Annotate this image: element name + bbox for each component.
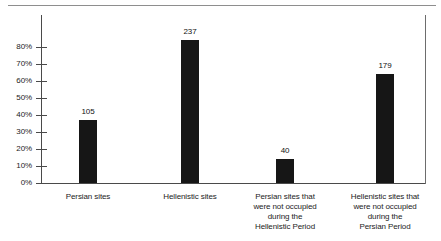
bar-value-label: 179 — [360, 61, 410, 70]
y-axis-tick-label: 20% — [0, 145, 32, 153]
top-divider-rule — [8, 5, 436, 6]
x-axis-category-label: Hellenistic sites — [137, 192, 243, 202]
y-axis-tick — [36, 115, 47, 116]
y-axis-tick-label: 0% — [0, 179, 32, 187]
x-axis-category-label: Persian sites thatwere not occupieddurin… — [232, 192, 338, 232]
category-label-line: Persian sites that — [232, 192, 338, 202]
category-label-line: Hellenistic Period — [232, 222, 338, 232]
x-axis-category-label: Persian sites — [35, 192, 141, 202]
category-label-line: Persian Period — [332, 222, 438, 232]
y-axis-tick — [36, 166, 47, 167]
category-label-line: Hellenistic sites that — [332, 192, 438, 202]
bar — [181, 40, 199, 183]
x-axis-category-label: Hellenistic sites thatwere not occupiedd… — [332, 192, 438, 232]
y-axis-tick-label: 50% — [0, 94, 32, 102]
y-axis-tick-label: 10% — [0, 162, 32, 170]
y-axis-tick-label: 80% — [0, 43, 32, 51]
y-axis-tick-label: 70% — [0, 60, 32, 68]
category-label-line: were not occupied — [332, 202, 438, 212]
y-axis-tick — [36, 64, 47, 65]
bar — [276, 159, 294, 183]
bar-value-label: 105 — [63, 107, 113, 116]
plot-right-border — [425, 15, 426, 184]
y-axis-tick — [36, 47, 47, 48]
y-axis-tick — [36, 149, 47, 150]
y-axis-tick — [36, 132, 47, 133]
bar — [79, 120, 97, 183]
y-axis-tick-label: 60% — [0, 77, 32, 85]
y-axis-tick-label: 30% — [0, 128, 32, 136]
bar-value-label: 40 — [260, 146, 310, 155]
bar — [376, 74, 394, 183]
y-axis-tick — [36, 81, 47, 82]
y-axis-tick — [36, 183, 47, 184]
category-label-line: Hellenistic sites — [137, 192, 243, 202]
category-label-line: during the — [232, 212, 338, 222]
bar-value-label: 237 — [165, 27, 215, 36]
x-axis-line — [41, 183, 426, 184]
category-label-line: Persian sites — [35, 192, 141, 202]
y-axis-tick-label: 40% — [0, 111, 32, 119]
category-label-line: were not occupied — [232, 202, 338, 212]
y-axis-tick — [36, 98, 47, 99]
y-axis-line — [41, 15, 42, 184]
bar-chart-figure: 0%10%20%30%40%50%60%70%80% 10523740179 P… — [0, 0, 441, 241]
category-label-line: during the — [332, 212, 438, 222]
